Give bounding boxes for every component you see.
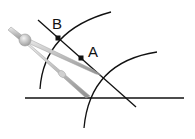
point-b-marker bbox=[56, 36, 61, 41]
point-a-marker bbox=[79, 56, 84, 61]
compass-icon bbox=[8, 27, 101, 98]
point-a-label: A bbox=[88, 43, 98, 60]
point-b-label: B bbox=[52, 15, 62, 32]
compass-construction-diagram: B A bbox=[0, 0, 195, 139]
lower-arc bbox=[84, 52, 157, 128]
